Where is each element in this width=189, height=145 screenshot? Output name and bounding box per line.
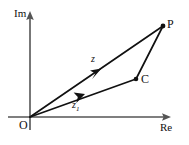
vector-z-label: z [91, 54, 95, 64]
point-p-dot [161, 24, 166, 29]
vector-z-label-text: z [91, 53, 95, 64]
vector-z1-group [30, 79, 136, 117]
vector-z1-line [30, 79, 136, 117]
imaginary-axis-label: Im [14, 8, 26, 19]
axes-group [8, 11, 171, 130]
point-p-label: P [167, 18, 174, 30]
vector-z1-label-subscript: 1 [76, 105, 80, 113]
real-axis-label: Re [160, 122, 172, 133]
point-c-label: C [141, 73, 149, 85]
vector-z-arrowhead [90, 69, 102, 79]
origin-label: O [19, 119, 28, 131]
argand-diagram-figure: Im Re O P C z z1 [0, 0, 189, 145]
point-c-dot [134, 77, 139, 82]
vector-z1-label: z1 [72, 100, 79, 113]
